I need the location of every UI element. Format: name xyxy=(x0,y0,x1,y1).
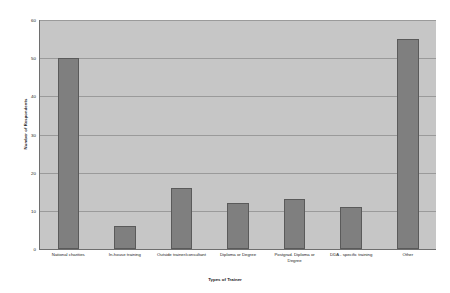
y-axis-tick-labels: 0102030405060 xyxy=(20,20,36,249)
y-tick-label: 40 xyxy=(20,94,36,99)
bar-slot xyxy=(266,20,323,249)
bar-slot xyxy=(379,20,436,249)
y-tick-label: 0 xyxy=(20,247,36,252)
bar xyxy=(397,39,418,249)
x-tick-label: Outside trainer/consultant xyxy=(153,252,210,272)
x-tick-label: Postgrad. Diploma or Degree xyxy=(266,252,323,272)
bar-slot xyxy=(323,20,380,249)
x-tick-label: Other xyxy=(379,252,436,272)
bar-chart: Number of Respondents 0102030405060 Nati… xyxy=(0,0,450,293)
bar xyxy=(284,199,305,249)
y-tick-label: 10 xyxy=(20,208,36,213)
bar xyxy=(340,207,361,249)
x-tick-label: In-house training xyxy=(97,252,154,272)
x-axis-tick-labels: National charitiesIn-house trainingOutsi… xyxy=(40,252,436,272)
y-tick-label: 50 xyxy=(20,56,36,61)
bar xyxy=(227,203,248,249)
plot-area xyxy=(39,20,436,250)
bar-slot xyxy=(153,20,210,249)
bars-container xyxy=(40,20,436,249)
bar xyxy=(171,188,192,249)
bar-slot xyxy=(210,20,267,249)
bar xyxy=(58,58,79,249)
bar xyxy=(114,226,135,249)
x-axis-title: Types of Trainer xyxy=(0,277,450,282)
bar-slot xyxy=(97,20,154,249)
y-tick-label: 30 xyxy=(20,132,36,137)
y-tick-label: 20 xyxy=(20,170,36,175)
y-tick-label: 60 xyxy=(20,18,36,23)
x-tick-label: DDA - specific training xyxy=(323,252,380,272)
x-tick-label: Diploma or Degree xyxy=(210,252,267,272)
x-tick-label: National charities xyxy=(40,252,97,272)
bar-slot xyxy=(40,20,97,249)
